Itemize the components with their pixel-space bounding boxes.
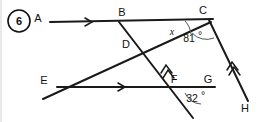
point-label-B: B bbox=[118, 6, 125, 18]
angle-label-81-value: 81 bbox=[183, 32, 195, 44]
angle-label-32-degree: ° bbox=[201, 89, 205, 101]
angle-label-x: x bbox=[169, 26, 175, 37]
point-label-F: F bbox=[171, 73, 178, 85]
point-label-A: A bbox=[34, 12, 42, 24]
angle-label-32-value: 32 bbox=[186, 92, 198, 104]
angle-label-81-degree: ° bbox=[198, 29, 202, 41]
question-number-badge: 6 bbox=[8, 10, 30, 32]
point-label-H: H bbox=[241, 102, 249, 114]
angle-label-32: 32 ° bbox=[186, 89, 205, 104]
point-label-E: E bbox=[40, 74, 47, 86]
geometry-figure: 6 A B C D E F G H x 81 ° 32 ° bbox=[0, 0, 261, 122]
question-number-text: 6 bbox=[16, 15, 22, 27]
point-label-G: G bbox=[204, 73, 213, 85]
point-label-C: C bbox=[199, 4, 207, 16]
line-EG bbox=[57, 83, 215, 91]
angle-label-81: 81 ° bbox=[183, 29, 202, 44]
line-AC bbox=[50, 18, 213, 26]
point-label-D: D bbox=[122, 38, 130, 50]
line-CH bbox=[209, 20, 248, 101]
angle-81-arc bbox=[192, 33, 214, 39]
